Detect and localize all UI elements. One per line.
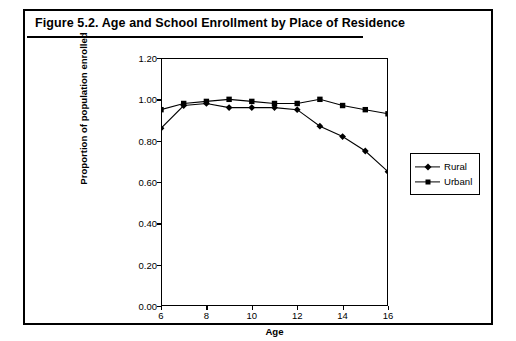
legend-label-rural: Rural — [440, 161, 467, 172]
figure-title: Figure 5.2. Age and School Enrollment by… — [35, 16, 405, 30]
data-point-urbanl — [363, 107, 368, 112]
x-axis-tick-mark — [252, 306, 253, 310]
x-axis-tick-mark — [206, 306, 207, 310]
y-axis-tick-label: 0.80 — [123, 135, 157, 146]
legend-marker-diamond-icon — [415, 161, 440, 173]
data-point-urbanl — [226, 97, 231, 102]
y-axis-tick-label: 1.20 — [123, 53, 157, 64]
data-point-urbanl — [385, 111, 388, 116]
x-axis-title: Age — [161, 326, 388, 337]
data-point-urbanl — [317, 97, 322, 102]
data-point-rural — [226, 104, 233, 111]
y-axis-tick-label: 1.00 — [123, 94, 157, 105]
data-point-urbanl — [161, 107, 164, 112]
x-axis-tick-mark — [161, 306, 162, 310]
y-axis-tick-label: 0.60 — [123, 177, 157, 188]
data-point-urbanl — [272, 101, 277, 106]
data-point-urbanl — [181, 101, 186, 106]
y-axis-tick-label: 0.20 — [123, 259, 157, 270]
x-axis-tick-label: 16 — [373, 310, 403, 321]
x-axis-tick-label: 6 — [146, 310, 176, 321]
legend-marker-square-icon — [415, 176, 440, 188]
x-axis-tick-label: 12 — [282, 310, 312, 321]
y-axis-tick-mark — [157, 265, 161, 266]
y-axis-labels: 0.000.200.400.600.801.001.20 — [121, 58, 157, 306]
y-axis-title: Proportion of population enrolled — [78, 9, 89, 209]
y-axis-tick-mark — [157, 99, 161, 100]
x-axis-tick-label: 14 — [328, 310, 358, 321]
legend-item-rural: Rural — [415, 159, 472, 174]
x-axis-tick-mark — [388, 306, 389, 310]
y-axis-tick-mark — [157, 223, 161, 224]
y-axis-tick-mark — [157, 182, 161, 183]
legend-label-urban: Urbanl — [440, 176, 472, 187]
plot-area — [161, 58, 388, 306]
series-line-rural — [161, 103, 388, 171]
chart-series-svg — [161, 58, 388, 306]
y-axis-tick-mark — [157, 58, 161, 59]
y-axis-tick-label: 0.40 — [123, 218, 157, 229]
figure-container: Figure 5.2. Age and School Enrollment by… — [23, 9, 493, 325]
data-point-urbanl — [295, 101, 300, 106]
x-axis-tick-label: 8 — [191, 310, 221, 321]
data-point-urbanl — [204, 99, 209, 104]
legend-item-urban: Urbanl — [415, 174, 472, 189]
x-axis-tick-mark — [297, 306, 298, 310]
x-axis-tick-label: 10 — [237, 310, 267, 321]
data-point-rural — [339, 133, 346, 140]
y-axis-tick-mark — [157, 141, 161, 142]
data-point-rural — [248, 104, 255, 111]
chart-legend: Rural Urbanl — [410, 153, 480, 195]
data-point-urbanl — [249, 99, 254, 104]
data-point-urbanl — [340, 103, 345, 108]
x-axis-tick-mark — [343, 306, 344, 310]
